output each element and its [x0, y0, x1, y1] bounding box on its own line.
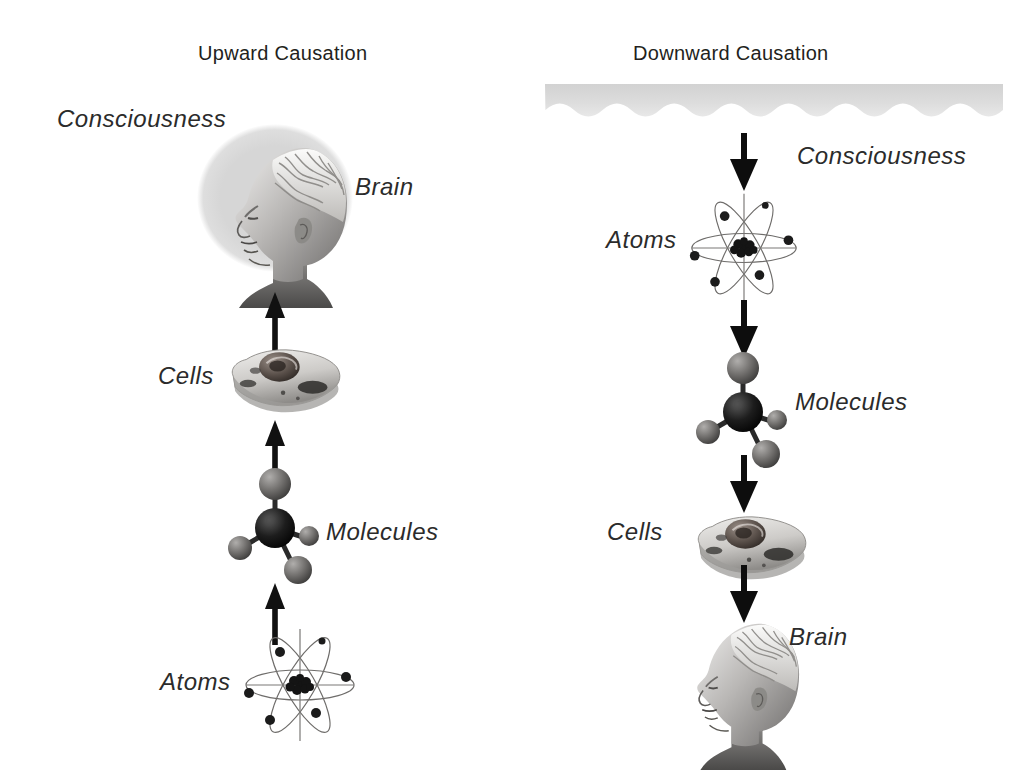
label-cells-left: Cells	[158, 362, 214, 390]
label-atoms-left: Atoms	[160, 668, 231, 696]
label-brain-right: Brain	[789, 623, 848, 651]
label-atoms-right: Atoms	[606, 226, 677, 254]
atom-icon	[240, 625, 360, 745]
label-cells-right: Cells	[607, 518, 663, 546]
wavy-band-icon	[545, 84, 1003, 128]
atom-icon	[686, 190, 802, 306]
label-molecules-right: Molecules	[795, 388, 908, 416]
column-title-upward: Upward Causation	[198, 42, 367, 65]
cell-icon	[224, 341, 344, 421]
arrow-down-consciousness-to-atoms	[727, 133, 761, 191]
label-consciousness-right: Consciousness	[797, 142, 966, 170]
head-brain-icon	[215, 133, 365, 308]
label-molecules-left: Molecules	[326, 518, 439, 546]
column-title-downward: Downward Causation	[633, 42, 829, 65]
diagram-canvas: Upward Causation Downward Causation Cons…	[0, 0, 1013, 780]
arrow-down-molecules-to-cells	[727, 455, 761, 513]
label-brain-left: Brain	[355, 173, 414, 201]
label-consciousness-left: Consciousness	[57, 105, 226, 133]
molecule-icon	[220, 466, 330, 586]
molecule-icon	[688, 350, 798, 470]
